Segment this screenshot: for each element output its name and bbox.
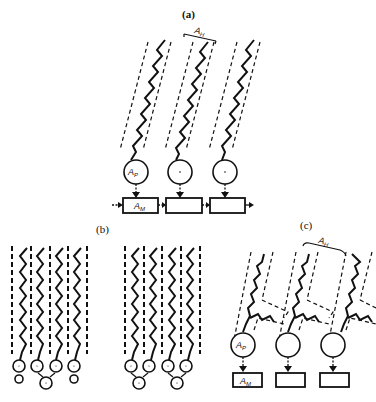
panel-b-label: (b) bbox=[96, 223, 109, 236]
panel-c-molecule-2 bbox=[276, 252, 333, 387]
diagram-canvas: (a) AH AP bbox=[0, 0, 376, 402]
panel-a-molecule-2 bbox=[165, 42, 214, 198]
panel-c-box-3 bbox=[320, 373, 349, 387]
panel-c-label: (c) bbox=[300, 219, 313, 232]
panel-c-molecule-1: AP AM bbox=[231, 252, 288, 387]
panel-b: (b) bbox=[12, 223, 200, 389]
panel-a-molecule-3 bbox=[209, 40, 260, 198]
panel-a-label: (a) bbox=[182, 8, 195, 21]
panel-a-box-2 bbox=[166, 198, 202, 213]
panel-a: (a) AH AP bbox=[112, 8, 260, 213]
panel-c-box-2 bbox=[276, 373, 305, 387]
panel-c: (c) AH AP AM bbox=[231, 219, 376, 387]
panel-a-molecule-1: AP bbox=[120, 40, 171, 198]
panel-b-group-1 bbox=[12, 246, 87, 389]
panel-c-ah-label: AH bbox=[316, 235, 330, 248]
panel-a-width-marker: AH bbox=[184, 25, 216, 44]
panel-b-group-2 bbox=[125, 246, 200, 389]
panel-c-width-marker: AH bbox=[303, 235, 346, 256]
panel-a-matrix-row: AM bbox=[112, 198, 254, 213]
panel-c-molecule-3 bbox=[320, 252, 376, 387]
panel-a-box-3 bbox=[210, 198, 245, 213]
